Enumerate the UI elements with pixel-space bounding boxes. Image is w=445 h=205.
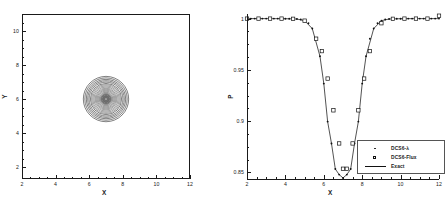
profile-x-minor-tick — [372, 177, 373, 179]
profile-y-minor-tick — [247, 83, 249, 84]
contour-x-tick-label: 4 — [51, 181, 61, 187]
contour-x-minor-tick — [173, 177, 174, 179]
profile-y-minor-tick — [247, 31, 249, 32]
profile-x-tick-label: 10 — [396, 181, 406, 187]
contour-x-tick — [56, 175, 57, 179]
profile-x-minor-tick — [333, 177, 334, 179]
contour-y-minor-tick — [22, 48, 24, 49]
contour-y-axis-title: Y — [1, 94, 8, 98]
profile-x-minor-tick — [295, 177, 296, 179]
solid-line-icon — [362, 163, 388, 170]
contour-x-minor-tick — [72, 177, 73, 179]
profile-x-minor-tick — [410, 177, 411, 179]
contour-x-minor-tick — [114, 177, 115, 179]
contour-y-minor-tick — [22, 74, 24, 75]
vortex-contour-rings — [22, 14, 190, 179]
profile-x-tick-label: 6 — [319, 181, 329, 187]
contour-x-axis-title: X — [102, 189, 106, 196]
profile-panel: 24681012 0.850.90.951 X P DCS6-λ DCS6-Fl… — [215, 0, 439, 205]
open-square-marker-icon — [362, 154, 388, 161]
profile-x-minor-tick — [429, 177, 430, 179]
contour-x-minor-tick — [39, 177, 40, 179]
profile-x-minor-tick — [276, 177, 277, 179]
profile-y-tick-label: 1 — [227, 16, 244, 22]
contour-x-minor-tick — [98, 177, 99, 179]
profile-x-tick — [285, 175, 286, 179]
contour-panel: 24681012 246810 X Y — [0, 0, 215, 205]
contour-y-minor-tick — [22, 150, 24, 151]
dot-marker-icon — [362, 145, 388, 152]
contour-x-tick — [89, 175, 90, 179]
contour-y-tick — [22, 31, 26, 32]
contour-x-tick — [22, 175, 23, 179]
profile-y-minor-tick — [247, 19, 249, 20]
contour-y-tick — [22, 133, 26, 134]
profile-y-minor-tick — [247, 70, 249, 71]
contour-x-minor-tick — [64, 177, 65, 179]
profile-y-axis-line — [247, 14, 248, 179]
legend-label-1: DCS6-Flux — [391, 154, 417, 161]
contour-x-tick-label: 10 — [151, 181, 161, 187]
profile-x-tick — [324, 175, 325, 179]
legend-item-2: Exact — [362, 163, 444, 170]
profile-x-tick-label: 8 — [357, 181, 367, 187]
contour-y-tick-label: 2 — [8, 164, 19, 170]
profile-y-minor-tick — [247, 96, 249, 97]
profile-x-minor-tick — [257, 177, 258, 179]
profile-y-minor-tick — [247, 134, 249, 135]
contour-x-tick — [156, 175, 157, 179]
profile-x-tick — [439, 175, 440, 179]
contour-y-minor-tick — [22, 57, 24, 58]
contour-x-minor-tick — [182, 177, 183, 179]
contour-y-tick — [22, 99, 26, 100]
profile-x-minor-tick — [420, 177, 421, 179]
contour-y-minor-tick — [22, 91, 24, 92]
contour-y-tick-label: 8 — [8, 62, 19, 68]
profile-x-tick-label: 12 — [434, 181, 444, 187]
profile-y-minor-tick — [247, 44, 249, 45]
contour-svg — [22, 14, 190, 179]
profile-y-tick — [247, 172, 251, 173]
contour-x-tick — [190, 175, 191, 179]
contour-y-minor-tick — [22, 116, 24, 117]
profile-y-minor-tick — [247, 121, 249, 122]
contour-x-tick-label: 2 — [17, 181, 27, 187]
contour-y-tick-label: 10 — [8, 28, 19, 34]
profile-y-tick-label: 0.9 — [227, 118, 244, 124]
profile-x-tick — [401, 175, 402, 179]
legend-label-0: DCS6-λ — [391, 145, 409, 152]
contour-x-tick-label: 6 — [84, 181, 94, 187]
contour-x-minor-tick — [131, 177, 132, 179]
profile-x-axis-title: X — [328, 189, 332, 196]
profile-y-minor-tick — [247, 160, 249, 161]
profile-x-tick — [362, 175, 363, 179]
profile-x-minor-tick — [314, 177, 315, 179]
legend-item-0: DCS6-λ — [362, 145, 444, 152]
legend-box: DCS6-λ DCS6-Flux Exact — [357, 140, 445, 174]
profile-y-minor-tick — [247, 108, 249, 109]
contour-y-tick-label: 6 — [8, 96, 19, 102]
legend-item-1: DCS6-Flux — [362, 154, 444, 161]
contour-y-tick-label: 4 — [8, 130, 19, 136]
contour-y-tick — [22, 65, 26, 66]
profile-x-tick-label: 2 — [242, 181, 252, 187]
profile-y-tick-label: 0.85 — [227, 169, 244, 175]
profile-x-minor-tick — [343, 177, 344, 179]
contour-x-minor-tick — [140, 177, 141, 179]
profile-x-minor-tick — [391, 177, 392, 179]
contour-y-minor-tick — [22, 159, 24, 160]
profile-y-minor-tick — [247, 57, 249, 58]
contour-x-tick-label: 12 — [185, 181, 195, 187]
profile-y-axis-title: P — [227, 94, 234, 98]
contour-y-minor-tick — [22, 14, 24, 15]
contour-y-minor-tick — [22, 125, 24, 126]
profile-x-tick-label: 4 — [280, 181, 290, 187]
profile-y-tick-label: 0.95 — [227, 67, 244, 73]
contour-x-minor-tick — [30, 177, 31, 179]
profile-x-minor-tick — [381, 177, 382, 179]
profile-y-minor-tick — [247, 147, 249, 148]
profile-x-minor-tick — [266, 177, 267, 179]
contour-x-tick-label: 8 — [118, 181, 128, 187]
contour-x-minor-tick — [47, 177, 48, 179]
